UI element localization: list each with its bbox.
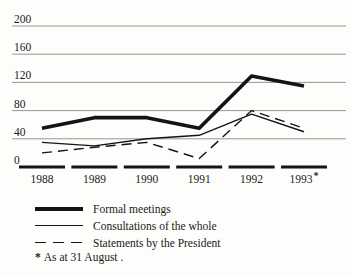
dashed-line-swatch	[35, 242, 83, 244]
x-tick-label: 1992	[240, 173, 263, 185]
legend-label-statements: Statements by the President	[93, 237, 220, 249]
x-tick-label: 1990	[135, 173, 158, 185]
legend: Formal meetings Consultations of the who…	[35, 200, 220, 251]
x-tick-label: 1988	[31, 173, 54, 185]
legend-item-statements: Statements by the President	[35, 234, 220, 251]
x-axis-segment	[281, 166, 327, 169]
y-tick-label: 40	[14, 126, 26, 138]
x-tick-label: 1993*	[290, 170, 319, 185]
thick-line-swatch	[35, 207, 83, 211]
legend-item-consultations: Consultations of the whole	[35, 217, 220, 234]
x-tick-label: 1989	[83, 173, 106, 185]
series-line-formal-meetings	[42, 76, 304, 128]
thin-line-swatch	[35, 225, 83, 227]
y-tick-label: 0	[14, 154, 20, 166]
series-line-statements-by-the-president	[42, 111, 304, 159]
legend-label-formal-meetings: Formal meetings	[93, 203, 171, 215]
x-axis-segment	[124, 166, 170, 169]
y-tick-label: 200	[14, 13, 32, 25]
legend-item-formal-meetings: Formal meetings	[35, 200, 220, 217]
x-axis-segment	[19, 166, 65, 169]
y-tick-label: 80	[14, 98, 26, 110]
x-axis-segment	[71, 166, 117, 169]
footnote: *As at 31 August .	[35, 251, 123, 263]
x-tick-label: 1991	[188, 173, 211, 185]
legend-label-consultations: Consultations of the whole	[93, 220, 217, 232]
footnote-text: As at 31 August .	[44, 251, 124, 263]
y-tick-label: 160	[14, 41, 32, 53]
x-axis-segment	[229, 166, 275, 169]
footnote-asterisk: *	[35, 251, 41, 263]
x-label-note-marker: *	[314, 170, 319, 181]
y-tick-label: 120	[14, 69, 32, 81]
x-axis-segment	[176, 166, 222, 169]
line-chart: 20016012080400198819891990199119921993*	[0, 0, 352, 192]
security-council-meetings-chart: 20016012080400198819891990199119921993* …	[0, 0, 352, 277]
